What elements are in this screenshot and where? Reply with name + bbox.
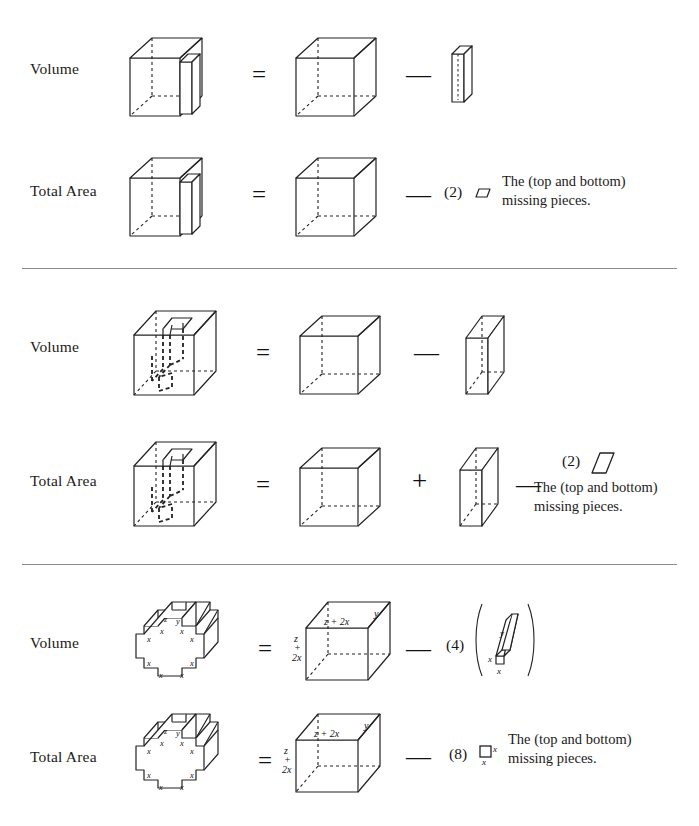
bar-label-x-left: x <box>487 654 492 664</box>
cube2-label-left-2x: 2x <box>282 764 292 775</box>
section-divider-2 <box>22 564 677 565</box>
labeled-cube-figure-2: z + 2x y z + 2x <box>262 700 390 804</box>
row-label-volume-2: Volume <box>30 338 79 356</box>
row-label-total-area-3: Total Area <box>30 748 97 766</box>
multiplier-four: (4) <box>446 636 464 654</box>
square-label-x-right: x <box>492 744 497 754</box>
labeled-cube-figure-1: z + 2x y z + 2x <box>272 588 400 692</box>
caption-1: The (top and bottom)missing pieces. <box>502 172 626 209</box>
operator-minus-3: — <box>414 340 439 365</box>
cross2-label-x-5: x <box>146 770 151 780</box>
cube-figure-1 <box>288 28 388 123</box>
operator-equals-3: = <box>256 340 270 365</box>
cube-label-left-2x: 2x <box>292 652 302 663</box>
cube-label-depth: y <box>373 608 379 619</box>
operator-equals-1: = <box>252 62 266 87</box>
cross2-label-x-2: x <box>179 738 184 748</box>
cube2-label-top-edge: z + 2x <box>313 728 340 739</box>
cross-prism-figure-1: y z x x x x x x x x <box>128 588 244 692</box>
multiplier-eight: (8) <box>449 745 467 763</box>
cross-prism-figure-2: y z x x x x x x x x <box>128 700 244 804</box>
figure-page: Volume <box>0 0 699 826</box>
row-label-volume-1: Volume <box>30 60 79 78</box>
box-with-through-hole-figure-2 <box>126 434 230 536</box>
cross-label-x-2: x <box>179 626 184 636</box>
slab-figure-2 <box>452 438 508 533</box>
parallelogram-figure <box>588 449 618 477</box>
cross2-label-y: y <box>175 728 180 738</box>
cross-label-y: y <box>175 616 180 626</box>
cross-label-x-5: x <box>146 658 151 668</box>
labeled-square-figure: x x <box>477 741 505 767</box>
square-label-x-bottom: x <box>481 757 486 767</box>
cube-figure-3 <box>292 306 392 401</box>
cross2-label-z: z <box>163 726 168 736</box>
caption-line-3: The (top and bottom)missing pieces. <box>508 730 632 767</box>
operator-minus-6: — <box>406 744 431 769</box>
cube2-label-depth: y <box>363 720 369 731</box>
cross-label-z: z <box>163 614 168 624</box>
caption-3: The (top and bottom)missing pieces. <box>508 730 632 767</box>
cross2-label-x-6: x <box>189 770 194 780</box>
caption-line-1: The (top and bottom)missing pieces. <box>502 172 626 209</box>
row-label-total-area-2: Total Area <box>30 472 97 490</box>
cross-label-x-7: x <box>158 670 163 680</box>
cross-label-x-8: x <box>179 670 184 680</box>
cube-label-top-edge: z + 2x <box>323 616 350 627</box>
operator-plus-1: + <box>412 468 427 495</box>
slab-figure-1 <box>458 306 514 401</box>
multiplier-two-1: (2) <box>444 183 462 201</box>
operator-equals-4: = <box>256 472 270 497</box>
labeled-bar-bracket-group: y x x <box>470 600 540 680</box>
cross2-label-x-1: x <box>159 738 164 748</box>
caption-2: The (top and bottom)missing pieces. <box>534 478 658 515</box>
cross2-label-x-3: x <box>146 746 151 756</box>
cross2-label-x-7: x <box>158 782 163 792</box>
cross2-label-x-4: x <box>189 746 194 756</box>
section-divider-1 <box>22 268 677 269</box>
cube-figure-4 <box>292 438 392 533</box>
cross-label-x-4: x <box>189 634 194 644</box>
parallelogram-tiny-figure <box>472 186 492 200</box>
row-label-total-area-1: Total Area <box>30 182 97 200</box>
cross-label-x-6: x <box>189 658 194 668</box>
bracket-left-icon <box>476 604 482 676</box>
slotted-cube-figure-2 <box>122 148 234 243</box>
bar-label-y: y <box>499 628 504 638</box>
caption-line-2: The (top and bottom)missing pieces. <box>534 478 658 515</box>
operator-equals-5: = <box>258 636 272 661</box>
multiplier-two-2: (2) <box>562 452 580 470</box>
cross-label-x-3: x <box>146 634 151 644</box>
row-label-volume-3: Volume <box>30 634 79 652</box>
operator-minus-1: — <box>406 62 431 87</box>
bar-label-x-bottom: x <box>496 666 501 676</box>
bracket-right-icon <box>528 604 534 676</box>
operator-equals-2: = <box>252 182 266 207</box>
cross2-label-x-8: x <box>179 782 184 792</box>
box-with-through-hole-figure-1 <box>126 303 230 405</box>
thin-slab-small-figure <box>448 40 484 110</box>
operator-minus-5: — <box>406 636 431 661</box>
cross-label-x-1: x <box>159 626 164 636</box>
cube-figure-2 <box>288 148 388 243</box>
slotted-cube-figure-1 <box>122 28 234 123</box>
operator-minus-2: — <box>406 182 431 207</box>
